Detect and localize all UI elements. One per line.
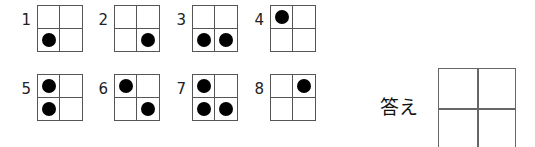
grid-cell bbox=[271, 75, 293, 98]
puzzle-number: 7 bbox=[172, 82, 186, 97]
grid-cell bbox=[193, 6, 215, 29]
answer-grid-divider-horizontal bbox=[439, 108, 515, 110]
grid-cell bbox=[137, 6, 159, 29]
grid-cell bbox=[293, 98, 315, 121]
grid-cell bbox=[115, 6, 137, 29]
puzzle-grid-8 bbox=[270, 74, 316, 121]
filled-dot-icon bbox=[42, 79, 56, 93]
filled-dot-icon bbox=[219, 102, 233, 116]
grid-cell bbox=[193, 98, 215, 121]
puzzle-number: 3 bbox=[172, 13, 186, 28]
grid-cell bbox=[271, 6, 293, 29]
filled-dot-icon bbox=[297, 79, 311, 93]
puzzle-grid-3 bbox=[192, 5, 238, 52]
grid-cell bbox=[60, 6, 82, 29]
grid-cell bbox=[38, 29, 60, 52]
filled-dot-icon bbox=[197, 79, 211, 93]
grid-cell bbox=[215, 6, 237, 29]
grid-cell bbox=[215, 29, 237, 52]
puzzle-number: 4 bbox=[250, 13, 264, 28]
answer-grid[interactable] bbox=[438, 68, 516, 147]
filled-dot-icon bbox=[197, 102, 211, 116]
grid-cell bbox=[215, 75, 237, 98]
puzzle-grid-1 bbox=[37, 5, 83, 52]
grid-cell bbox=[137, 98, 159, 121]
grid-cell bbox=[60, 98, 82, 121]
filled-dot-icon bbox=[141, 33, 155, 47]
grid-cell bbox=[137, 75, 159, 98]
puzzle-number: 1 bbox=[17, 13, 31, 28]
answer-label: 答え bbox=[380, 96, 418, 118]
grid-cell bbox=[60, 29, 82, 52]
filled-dot-icon bbox=[42, 33, 56, 47]
grid-cell bbox=[193, 75, 215, 98]
puzzle-number: 6 bbox=[94, 82, 108, 97]
puzzle-grid-2 bbox=[114, 5, 160, 52]
grid-cell bbox=[115, 29, 137, 52]
grid-cell bbox=[115, 98, 137, 121]
puzzle-number: 2 bbox=[94, 13, 108, 28]
filled-dot-icon bbox=[275, 10, 289, 24]
grid-cell bbox=[293, 6, 315, 29]
filled-dot-icon bbox=[119, 79, 133, 93]
puzzle-grid-7 bbox=[192, 74, 238, 121]
grid-cell bbox=[38, 98, 60, 121]
grid-cell bbox=[215, 98, 237, 121]
grid-cell bbox=[293, 29, 315, 52]
grid-cell bbox=[60, 75, 82, 98]
puzzle-number: 5 bbox=[17, 82, 31, 97]
grid-cell bbox=[115, 75, 137, 98]
grid-cell bbox=[271, 29, 293, 52]
filled-dot-icon bbox=[219, 33, 233, 47]
filled-dot-icon bbox=[42, 102, 56, 116]
filled-dot-icon bbox=[197, 33, 211, 47]
grid-cell bbox=[38, 6, 60, 29]
grid-cell bbox=[137, 29, 159, 52]
grid-cell bbox=[271, 98, 293, 121]
puzzle-grid-6 bbox=[114, 74, 160, 121]
grid-cell bbox=[193, 29, 215, 52]
puzzle-number: 8 bbox=[250, 82, 264, 97]
puzzle-grid-4 bbox=[270, 5, 316, 52]
puzzle-grid-5 bbox=[37, 74, 83, 121]
grid-cell bbox=[38, 75, 60, 98]
filled-dot-icon bbox=[141, 102, 155, 116]
grid-cell bbox=[293, 75, 315, 98]
